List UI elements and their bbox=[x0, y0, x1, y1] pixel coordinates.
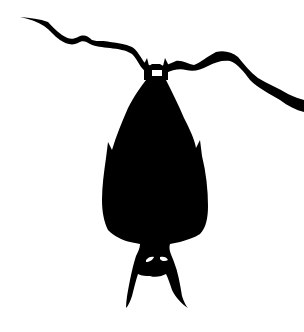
bat-silhouette-svg bbox=[0, 0, 304, 332]
bat-feet bbox=[144, 58, 168, 80]
bat-illustration bbox=[0, 0, 304, 332]
feet-gap bbox=[152, 70, 162, 76]
bat-body bbox=[102, 80, 208, 308]
